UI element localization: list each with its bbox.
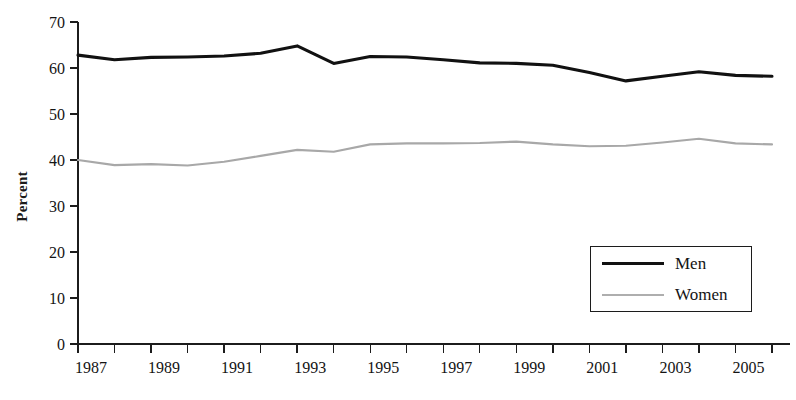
plot-area: 010203040506070 198719891991199319951997… — [0, 0, 796, 400]
x-tick-label: 1987 — [75, 359, 107, 376]
x-tick-label: 1999 — [513, 359, 545, 376]
legend-swatch-men-icon — [600, 262, 666, 265]
legend-item-women: Women — [591, 278, 751, 311]
x-tick-label: 1989 — [148, 359, 180, 376]
y-tick-label: 10 — [49, 290, 65, 307]
legend-label-women: Women — [675, 285, 727, 305]
x-tick-label: 2003 — [659, 359, 691, 376]
y-tick-label: 30 — [49, 198, 65, 215]
series-line-women — [78, 139, 772, 166]
y-tick-label: 0 — [57, 336, 65, 353]
series-line-men — [78, 46, 772, 81]
y-tick-label: 70 — [49, 14, 65, 31]
y-tick-label: 20 — [49, 244, 65, 261]
x-tick-label: 1993 — [294, 359, 326, 376]
y-tick-label: 50 — [49, 106, 65, 123]
x-tick-label: 2005 — [732, 359, 764, 376]
legend-swatch-women-icon — [600, 294, 666, 296]
x-tick-label: 1991 — [221, 359, 253, 376]
x-tick-label: 2001 — [586, 359, 618, 376]
y-tick-label: 40 — [49, 152, 65, 169]
legend-box: Men Women — [590, 246, 752, 312]
legend-label-men: Men — [675, 254, 706, 274]
x-tick-label: 1995 — [367, 359, 399, 376]
y-tick-group: 010203040506070 — [49, 14, 78, 353]
chart-figure: Percent 010203040506070 1987198919911993… — [0, 0, 796, 400]
y-tick-label: 60 — [49, 60, 65, 77]
x-tick-label: 1997 — [440, 359, 472, 376]
legend-item-men: Men — [591, 247, 751, 280]
x-tick-group: 1987198919911993199519971999200120032005 — [75, 344, 772, 376]
